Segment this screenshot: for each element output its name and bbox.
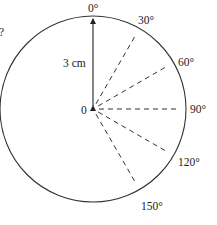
dashed-rays xyxy=(96,34,180,184)
dashed-ray-60 xyxy=(98,66,168,106)
center-label: 0 xyxy=(81,104,87,116)
dashed-ray-30 xyxy=(96,34,136,104)
angle-label-0: 0° xyxy=(88,2,99,14)
angle-label-60: 60° xyxy=(178,56,195,68)
dashed-ray-150 xyxy=(96,114,136,184)
angle-label-30: 30° xyxy=(138,14,155,26)
radius-label: 3 cm xyxy=(63,57,86,69)
question-mark-fragment: ? xyxy=(0,26,4,38)
angle-label-120: 120° xyxy=(178,156,200,168)
circle-angle-diagram: ? 3 cm 0 0° 30° 60° 90° 120° 150° xyxy=(0,0,217,225)
dashed-ray-120 xyxy=(98,112,168,152)
angle-label-150: 150° xyxy=(141,200,163,212)
angle-label-90: 90° xyxy=(190,103,207,115)
